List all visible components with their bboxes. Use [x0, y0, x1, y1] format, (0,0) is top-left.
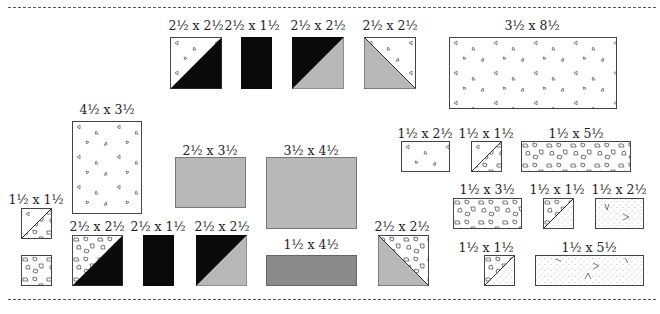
piece-hst-print-confetti: [21, 208, 52, 239]
piece-label: 2½ x 2½: [362, 18, 417, 33]
piece-confetti-rect: [453, 198, 522, 229]
piece-label: 2½ x 3½: [182, 143, 237, 158]
piece-label: 1½ x 2½: [397, 126, 452, 141]
piece-label: 2½ x 2½: [194, 219, 249, 234]
piece-confetti-strip: [521, 141, 631, 172]
piece-hst-black-gray: [292, 37, 344, 89]
piece-hst-black-gray: [196, 235, 247, 286]
piece-label: 2½ x 2½: [168, 18, 223, 33]
piece-label: 2½ x 2½: [69, 219, 124, 234]
piece-label: 4½ x 3½: [79, 102, 134, 117]
piece-dark-gray-strip: [266, 255, 357, 286]
piece-label: 1½ x 1½: [458, 240, 513, 255]
piece-black-rect: [241, 37, 272, 89]
piece-label: 2½ x 1½: [130, 219, 185, 234]
piece-label: 1½ x 2½: [591, 182, 646, 197]
piece-label: 2½ x 2½: [290, 18, 345, 33]
piece-hst-gray-confetti: [378, 235, 429, 286]
piece-label: 1½ x 5½: [548, 126, 603, 141]
piece-hst-confetti-dots: [543, 198, 574, 229]
piece-light-gray-large: [266, 157, 357, 229]
piece-label: 3½ x 4½: [283, 143, 338, 158]
piece-label: 1½ x 5½: [561, 240, 616, 255]
top-cut-line: [8, 7, 656, 8]
piece-hst-print-black: [170, 37, 222, 89]
piece-light-gray-rect: [175, 157, 246, 208]
piece-dots-strip: [535, 255, 644, 286]
piece-label: 2½ x 2½: [374, 219, 429, 234]
piece-print-large: [449, 37, 617, 109]
piece-print-small: [401, 141, 450, 172]
piece-hst-gray-print: [364, 37, 416, 89]
piece-hst-confetti-black: [72, 235, 123, 286]
piece-label: 1½ x 3½: [459, 182, 514, 197]
piece-hst-confetti-dots: [484, 255, 515, 286]
bottom-cut-line: [8, 299, 656, 300]
piece-dots-small: [595, 198, 644, 229]
piece-black-rect: [143, 235, 174, 286]
piece-label: 1½ x 1½: [458, 126, 513, 141]
piece-label: 1½ x 4½: [283, 237, 338, 252]
piece-label: 1½ x 1½: [529, 182, 584, 197]
piece-confetti-square: [21, 255, 52, 286]
piece-label: 3½ x 8½: [504, 18, 559, 33]
piece-hst-print-confetti: [471, 141, 502, 172]
piece-print-tall: [72, 121, 142, 214]
piece-label: 2½ x 1½: [224, 18, 279, 33]
piece-label: 1½ x 1½: [8, 192, 63, 207]
